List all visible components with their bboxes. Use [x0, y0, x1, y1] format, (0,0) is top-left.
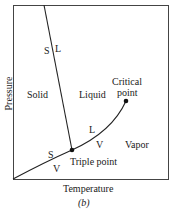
lv-v-label: V: [96, 140, 103, 150]
figure-caption: (b): [78, 198, 90, 208]
vapor-region-label: Vapor: [125, 140, 149, 150]
critical-label-1: Critical: [112, 77, 142, 87]
sl-s-label: S: [44, 46, 50, 56]
y-axis-label: Pressure: [3, 72, 14, 116]
critical-point-marker: [124, 99, 129, 104]
x-axis-label: Temperature: [63, 184, 113, 194]
phase-diagram: [0, 0, 171, 211]
solid-region-label: Solid: [27, 90, 48, 100]
solid-liquid-curve: [44, 5, 72, 150]
sl-l-label: L: [55, 44, 61, 54]
triple-point-marker: [70, 148, 75, 153]
vapor-curve: [13, 101, 126, 179]
critical-label-2: point: [117, 88, 138, 98]
lv-l-label: L: [89, 125, 95, 135]
triple-point-label: Triple point: [70, 157, 117, 167]
sv-v-label: V: [53, 164, 60, 174]
sv-s-label: S: [48, 150, 54, 160]
liquid-region-label: Liquid: [79, 90, 106, 100]
